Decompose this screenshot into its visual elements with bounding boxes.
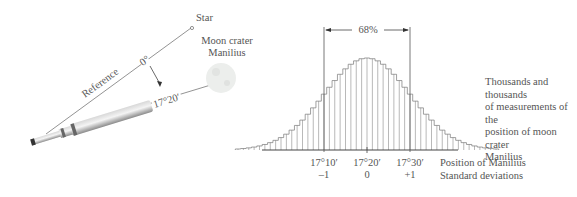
star-label: Star <box>196 12 213 24</box>
description-line: position of moon crater <box>485 126 577 151</box>
tick-sd: +1 <box>390 169 430 181</box>
axis-titles: Position of Manilius Standard deviations <box>440 157 526 182</box>
tick-sd: 0 <box>347 169 387 181</box>
star-icon <box>190 26 193 29</box>
histogram-bars <box>238 58 496 150</box>
moon-crater-label: Moon crater Manilius <box>192 35 262 59</box>
tick-position: 17°20′ <box>347 157 387 169</box>
moon-label-line2: Manilius <box>192 47 262 59</box>
tick-label-minus-1: 17°10′ –1 <box>304 157 344 181</box>
measurement-description: Thousands and thousands of measurements … <box>485 76 577 164</box>
arrow-left-icon <box>325 28 331 32</box>
tick-position: 17°10′ <box>304 157 344 169</box>
moon-crater-mark <box>224 80 230 86</box>
telescope-icon <box>29 100 153 149</box>
moon-label-line1: Moon crater <box>192 35 262 47</box>
description-line: Thousands and thousands <box>485 76 577 101</box>
tick-sd: –1 <box>304 169 344 181</box>
moon-icon <box>206 63 236 93</box>
tick-label-plus-1: 17°30′ +1 <box>390 157 430 181</box>
arrow-right-icon <box>403 28 409 32</box>
axis-title-sd: Standard deviations <box>440 170 526 183</box>
axis-title-position: Position of Manilius <box>440 157 526 170</box>
description-line: of measurements of the <box>485 101 577 126</box>
moon-crater-mark <box>212 68 220 76</box>
tick-label-mean: 17°20′ 0 <box>347 157 387 181</box>
arrowhead-icon <box>157 81 162 87</box>
percent-label: 68% <box>352 24 384 36</box>
tick-position: 17°30′ <box>390 157 430 169</box>
histogram <box>235 27 498 153</box>
